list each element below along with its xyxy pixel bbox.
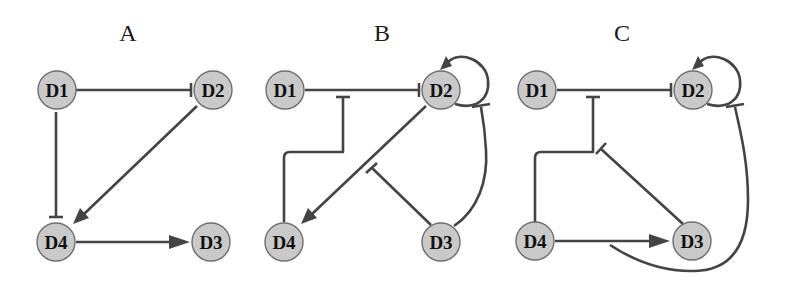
svg-text:D1: D1 [45,80,68,101]
node-a-d4: D4 [37,223,75,261]
svg-text:D4: D4 [523,231,547,252]
regulatory-network-figure: A D1 D2 D3 [0,0,785,281]
node-a-d3: D3 [192,223,230,261]
svg-text:D4: D4 [44,232,68,253]
edge-b-d2-activates-d4 [301,106,426,224]
svg-text:D2: D2 [201,80,224,101]
panel-a-title: A [119,20,137,46]
node-c-d4: D4 [516,222,554,260]
edge-b-d3-inhibits-d2d4-edge [366,163,431,225]
panel-b: B D1 [265,20,490,261]
svg-text:D3: D3 [429,232,452,253]
arrowhead-icon [440,56,452,70]
edge-b-d4-inhibits-d1d2-edge [284,97,350,222]
panel-c-title: C [614,20,630,46]
edge-b-d1-inhibits-d2 [305,83,419,97]
edge-a-d4-activates-d3 [76,235,190,249]
arrowhead-icon [649,234,670,248]
panel-c: C D1 [516,20,748,271]
node-b-d2: D2 [422,71,460,109]
node-c-d2: D2 [674,71,712,109]
node-b-d4: D4 [265,223,303,261]
svg-text:D3: D3 [680,231,703,252]
svg-text:D3: D3 [199,232,222,253]
node-c-d3: D3 [673,222,711,260]
svg-text:D2: D2 [681,80,704,101]
svg-text:D4: D4 [272,232,296,253]
edge-a-d1-inhibits-d4 [49,112,63,217]
node-c-d1: D1 [518,71,556,109]
svg-text:D2: D2 [429,80,452,101]
arrowhead-icon [169,235,190,249]
edge-a-d2-activates-d4 [73,106,197,224]
node-b-d1: D1 [266,71,304,109]
node-b-d3: D3 [422,223,460,261]
arrowhead-icon [692,56,704,70]
edge-b-d3-inhibits-d2 [454,104,490,226]
edge-a-d1-inhibits-d2 [76,83,191,97]
node-a-d2: D2 [194,71,232,109]
edge-c-d1-inhibits-d2 [557,83,671,97]
svg-text:D1: D1 [525,80,548,101]
edge-c-d3-inhibits-d4-path [596,143,683,224]
node-a-d1: D1 [38,71,76,109]
panel-a: A D1 D2 D3 [37,20,232,261]
svg-text:D1: D1 [273,80,296,101]
edge-c-d4-inhibits-d1d2-edge [535,97,600,222]
panel-b-title: B [374,20,390,46]
